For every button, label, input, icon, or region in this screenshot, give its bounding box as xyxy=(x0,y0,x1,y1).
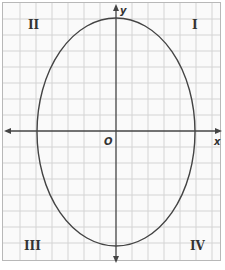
quadrant-ii-label: II xyxy=(28,18,40,32)
y-axis-label: y xyxy=(120,5,127,16)
coordinate-plane: y x O II I III IV xyxy=(0,0,225,270)
origin-label: O xyxy=(104,136,113,147)
quadrant-iv-label: IV xyxy=(190,239,206,253)
quadrant-iii-label: III xyxy=(24,239,41,253)
y-axis xyxy=(113,4,119,263)
x-axis-label: x xyxy=(213,136,221,147)
quadrant-i-label: I xyxy=(192,18,198,32)
